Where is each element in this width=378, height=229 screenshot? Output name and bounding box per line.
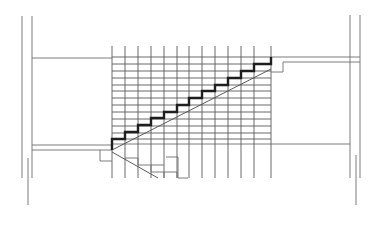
staircase-section-drawing — [0, 0, 378, 229]
step-outline — [271, 62, 283, 72]
step-outline — [100, 150, 112, 161]
diagonal-line — [112, 69, 271, 150]
underside-outline — [164, 172, 177, 178]
step-outline — [125, 158, 164, 178]
